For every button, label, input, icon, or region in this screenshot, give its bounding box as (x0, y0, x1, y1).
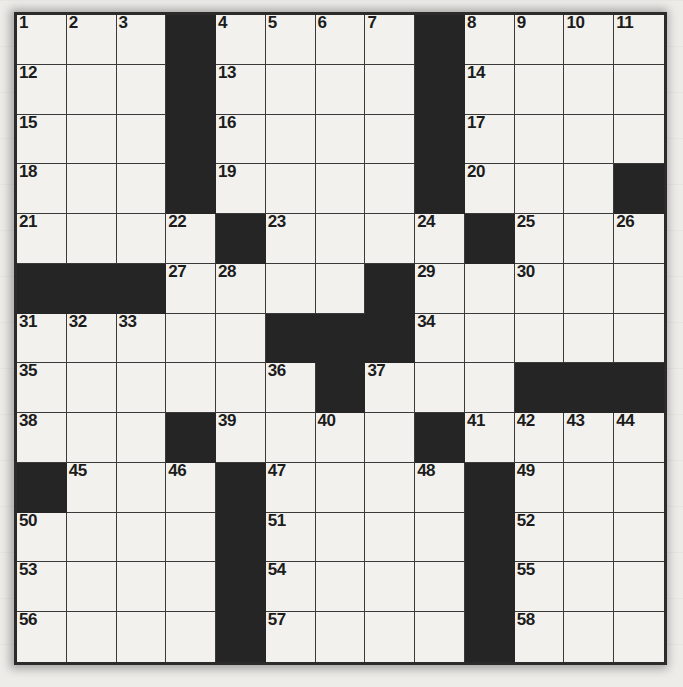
letter-square[interactable]: 44 (614, 413, 664, 463)
letter-square[interactable] (614, 264, 664, 314)
letter-square[interactable]: 24 (415, 214, 465, 264)
letter-square[interactable] (365, 115, 415, 165)
letter-square[interactable] (117, 65, 167, 115)
letter-square[interactable] (564, 314, 614, 364)
letter-square[interactable]: 37 (365, 363, 415, 413)
letter-square[interactable] (415, 612, 465, 662)
letter-square[interactable]: 43 (564, 413, 614, 463)
letter-square[interactable] (166, 314, 216, 364)
letter-square[interactable] (117, 562, 167, 612)
letter-square[interactable]: 56 (17, 612, 67, 662)
letter-square[interactable]: 29 (415, 264, 465, 314)
letter-square[interactable]: 41 (465, 413, 515, 463)
letter-square[interactable] (67, 363, 117, 413)
letter-square[interactable]: 31 (17, 314, 67, 364)
letter-square[interactable] (166, 363, 216, 413)
letter-square[interactable]: 32 (67, 314, 117, 364)
letter-square[interactable]: 19 (216, 164, 266, 214)
letter-square[interactable] (415, 562, 465, 612)
letter-square[interactable] (564, 513, 614, 563)
letter-square[interactable] (67, 562, 117, 612)
letter-square[interactable] (316, 463, 366, 513)
letter-square[interactable]: 23 (266, 214, 316, 264)
letter-square[interactable] (67, 413, 117, 463)
letter-square[interactable] (67, 115, 117, 165)
letter-square[interactable] (564, 214, 614, 264)
letter-square[interactable]: 25 (515, 214, 565, 264)
letter-square[interactable]: 22 (166, 214, 216, 264)
letter-square[interactable] (316, 115, 366, 165)
letter-square[interactable]: 10 (564, 15, 614, 65)
letter-square[interactable] (465, 264, 515, 314)
letter-square[interactable] (67, 164, 117, 214)
letter-square[interactable] (614, 65, 664, 115)
letter-square[interactable]: 21 (17, 214, 67, 264)
letter-square[interactable] (564, 65, 614, 115)
letter-square[interactable] (614, 314, 664, 364)
letter-square[interactable]: 55 (515, 562, 565, 612)
letter-square[interactable] (415, 363, 465, 413)
letter-square[interactable]: 49 (515, 463, 565, 513)
letter-square[interactable] (365, 612, 415, 662)
letter-square[interactable]: 33 (117, 314, 167, 364)
letter-square[interactable]: 13 (216, 65, 266, 115)
letter-square[interactable]: 51 (266, 513, 316, 563)
letter-square[interactable]: 12 (17, 65, 67, 115)
letter-square[interactable]: 34 (415, 314, 465, 364)
letter-square[interactable]: 45 (67, 463, 117, 513)
letter-square[interactable] (166, 562, 216, 612)
letter-square[interactable] (564, 264, 614, 314)
letter-square[interactable]: 38 (17, 413, 67, 463)
letter-square[interactable]: 40 (316, 413, 366, 463)
letter-square[interactable]: 3 (117, 15, 167, 65)
letter-square[interactable] (166, 612, 216, 662)
letter-square[interactable]: 30 (515, 264, 565, 314)
letter-square[interactable] (564, 562, 614, 612)
letter-square[interactable] (564, 612, 614, 662)
letter-square[interactable] (614, 463, 664, 513)
letter-square[interactable] (515, 164, 565, 214)
letter-square[interactable] (67, 513, 117, 563)
letter-square[interactable] (266, 115, 316, 165)
letter-square[interactable] (266, 65, 316, 115)
letter-square[interactable] (316, 164, 366, 214)
letter-square[interactable]: 8 (465, 15, 515, 65)
letter-square[interactable]: 58 (515, 612, 565, 662)
letter-square[interactable] (117, 115, 167, 165)
letter-square[interactable] (365, 463, 415, 513)
letter-square[interactable] (216, 314, 266, 364)
letter-square[interactable] (117, 612, 167, 662)
letter-square[interactable] (166, 513, 216, 563)
letter-square[interactable] (515, 65, 565, 115)
letter-square[interactable]: 35 (17, 363, 67, 413)
letter-square[interactable]: 11 (614, 15, 664, 65)
letter-square[interactable]: 47 (266, 463, 316, 513)
letter-square[interactable] (216, 363, 266, 413)
letter-square[interactable]: 1 (17, 15, 67, 65)
letter-square[interactable] (266, 413, 316, 463)
letter-square[interactable] (564, 115, 614, 165)
letter-square[interactable]: 20 (465, 164, 515, 214)
letter-square[interactable] (515, 314, 565, 364)
letter-square[interactable] (365, 164, 415, 214)
letter-square[interactable]: 7 (365, 15, 415, 65)
letter-square[interactable]: 5 (266, 15, 316, 65)
letter-square[interactable] (614, 115, 664, 165)
letter-square[interactable] (564, 164, 614, 214)
letter-square[interactable] (316, 214, 366, 264)
crossword-grid[interactable]: 1234567891011121314151617181920212223242… (14, 12, 667, 665)
letter-square[interactable] (614, 612, 664, 662)
letter-square[interactable] (117, 214, 167, 264)
letter-square[interactable] (117, 513, 167, 563)
letter-square[interactable]: 39 (216, 413, 266, 463)
letter-square[interactable] (515, 115, 565, 165)
letter-square[interactable] (564, 463, 614, 513)
letter-square[interactable] (316, 65, 366, 115)
letter-square[interactable]: 26 (614, 214, 664, 264)
letter-square[interactable]: 9 (515, 15, 565, 65)
letter-square[interactable] (614, 513, 664, 563)
letter-square[interactable] (316, 562, 366, 612)
letter-square[interactable] (67, 612, 117, 662)
letter-square[interactable] (316, 612, 366, 662)
letter-square[interactable] (316, 513, 366, 563)
